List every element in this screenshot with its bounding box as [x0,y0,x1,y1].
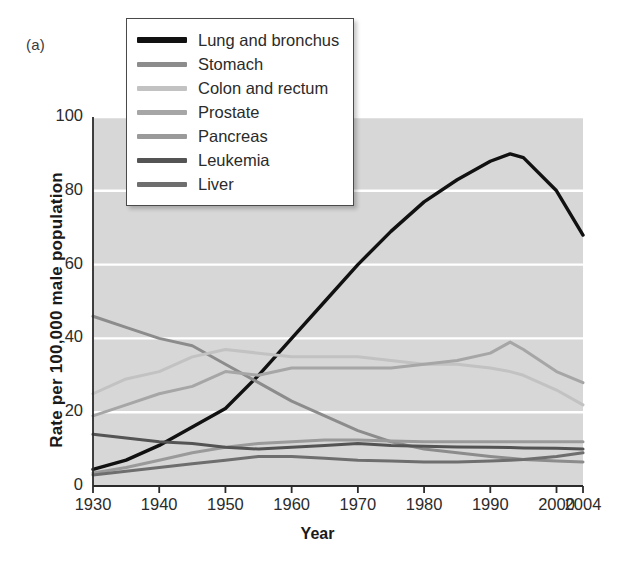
y-tick-label: 0 [31,475,83,494]
x-tick-label: 1970 [330,495,386,514]
x-tick-label: 2004 [555,495,611,514]
legend-item[interactable]: Liver [137,172,343,196]
legend-label: Lung and bronchus [198,32,339,49]
legend-item[interactable]: Leukemia [137,148,343,172]
y-tick-label: 60 [31,254,83,273]
chart-legend: Lung and bronchus Stomach Colon and rect… [126,18,354,206]
legend-swatch-pancreas [137,134,187,139]
legend-item[interactable]: Pancreas [137,124,343,148]
legend-swatch-liver [137,182,187,187]
legend-swatch-leukemia [137,158,187,163]
y-tick-label: 80 [31,180,83,199]
legend-label: Stomach [198,56,263,73]
legend-item[interactable]: Prostate [137,100,343,124]
y-tick-label: 40 [31,327,83,346]
legend-label: Liver [198,176,234,193]
x-tick-label: 1960 [264,495,320,514]
x-tick-label: 1980 [396,495,452,514]
x-tick-label: 1950 [197,495,253,514]
legend-label: Prostate [198,104,259,121]
y-tick-label: 20 [31,401,83,420]
legend-swatch-lung-and-bronchus [137,37,187,43]
legend-label: Pancreas [198,128,268,145]
y-tick-label: 100 [31,106,83,125]
legend-swatch-stomach [137,62,187,67]
x-tick-label: 1990 [462,495,518,514]
x-tick-label: 1940 [131,495,187,514]
legend-label: Leukemia [198,152,270,169]
figure-panel-a: (a) Rate per 100,000 male population Yea… [0,0,635,564]
x-axis-label: Year [0,525,635,543]
x-tick-label: 1930 [65,495,121,514]
legend-item[interactable]: Stomach [137,52,343,76]
legend-swatch-colon-and-rectum [137,86,187,91]
legend-label: Colon and rectum [198,80,328,97]
legend-swatch-prostate [137,110,187,115]
legend-item[interactable]: Lung and bronchus [137,28,343,52]
legend-item[interactable]: Colon and rectum [137,76,343,100]
